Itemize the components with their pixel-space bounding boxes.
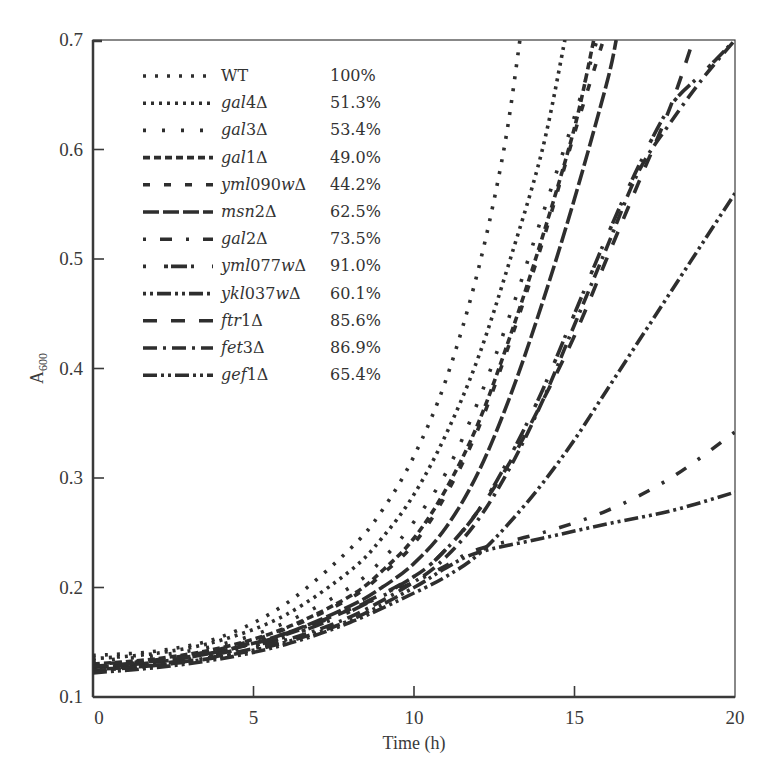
x-axis-ticks: 05101520 bbox=[94, 686, 744, 728]
y-axis-label: A600 bbox=[27, 353, 50, 384]
legend-label: ftr1Δ bbox=[220, 311, 263, 330]
legend-percentage: 73.5% bbox=[330, 229, 381, 248]
legend-percentage: 60.1% bbox=[330, 284, 381, 303]
x-tick-label: 10 bbox=[405, 707, 424, 728]
x-tick-label: 15 bbox=[565, 707, 584, 728]
plot-area-border bbox=[93, 40, 735, 697]
legend-label: gal3Δ bbox=[221, 120, 268, 139]
legend-percentage: 86.9% bbox=[330, 338, 381, 357]
legend-item: gal2Δ73.5% bbox=[143, 229, 381, 248]
series-line-ftr1-delta bbox=[93, 40, 693, 666]
x-tick-label: 5 bbox=[249, 707, 259, 728]
series-lines bbox=[93, 40, 735, 673]
legend-label: WT bbox=[221, 66, 248, 85]
legend-label: gef1Δ bbox=[221, 365, 268, 384]
y-axis-label-main: A bbox=[27, 371, 47, 384]
legend-label: gal2Δ bbox=[221, 229, 268, 248]
legend-percentage: 100% bbox=[330, 66, 376, 85]
legend-label: ykl037wΔ bbox=[220, 284, 301, 303]
legend-item: gal3Δ53.4% bbox=[143, 120, 381, 139]
legend: WT100%gal4Δ51.3%gal3Δ53.4%gal1Δ49.0%yml0… bbox=[143, 66, 381, 384]
legend-percentage: 62.5% bbox=[330, 202, 381, 221]
legend-label: msn2Δ bbox=[221, 202, 276, 221]
x-tick-label: 20 bbox=[726, 707, 745, 728]
y-tick-label: 0.4 bbox=[59, 358, 83, 379]
legend-item: gal4Δ51.3% bbox=[143, 93, 381, 112]
x-axis-label: Time (h) bbox=[383, 733, 446, 754]
y-tick-label: 0.2 bbox=[59, 577, 83, 598]
legend-item: ykl037wΔ60.1% bbox=[143, 284, 381, 303]
y-tick-label: 0.1 bbox=[59, 686, 83, 707]
legend-item: ftr1Δ85.6% bbox=[143, 311, 381, 330]
legend-label: yml077wΔ bbox=[220, 256, 306, 275]
y-tick-label: 0.3 bbox=[59, 467, 83, 488]
legend-percentage: 65.4% bbox=[330, 365, 381, 384]
legend-label: gal4Δ bbox=[221, 93, 268, 112]
y-tick-label: 0.6 bbox=[59, 139, 83, 160]
y-tick-label: 0.5 bbox=[59, 248, 83, 269]
y-tick-label: 0.7 bbox=[59, 29, 83, 50]
x-tick-label: 0 bbox=[94, 707, 104, 728]
legend-label: yml090wΔ bbox=[220, 175, 306, 194]
legend-item: gal1Δ49.0% bbox=[143, 148, 381, 167]
legend-item: yml090wΔ44.2% bbox=[143, 175, 381, 194]
legend-percentage: 85.6% bbox=[330, 311, 381, 330]
legend-percentage: 91.0% bbox=[330, 256, 381, 275]
legend-item: WT100% bbox=[143, 66, 376, 85]
y-axis-label-subscript: 600 bbox=[36, 353, 50, 371]
plot-frame bbox=[93, 40, 735, 697]
y-axis-ticks: 0.10.20.30.40.50.60.7 bbox=[59, 29, 104, 707]
series-line-wt bbox=[93, 40, 520, 655]
legend-percentage: 44.2% bbox=[330, 175, 381, 194]
legend-percentage: 53.4% bbox=[330, 120, 381, 139]
legend-percentage: 49.0% bbox=[330, 148, 381, 167]
series-line-ykl037w-delta bbox=[93, 492, 735, 669]
legend-item: gef1Δ65.4% bbox=[143, 365, 381, 384]
series-line-gef1-delta bbox=[93, 193, 735, 673]
legend-item: fet3Δ86.9% bbox=[143, 338, 381, 357]
legend-label: gal1Δ bbox=[221, 148, 268, 167]
legend-percentage: 51.3% bbox=[330, 93, 381, 112]
legend-label: fet3Δ bbox=[220, 338, 265, 357]
growth-curve-chart: 05101520 0.10.20.30.40.50.60.7 Time (h) … bbox=[0, 0, 771, 780]
legend-item: yml077wΔ91.0% bbox=[143, 256, 381, 275]
legend-item: msn2Δ62.5% bbox=[143, 202, 381, 221]
series-line-gal2-delta bbox=[93, 432, 735, 664]
